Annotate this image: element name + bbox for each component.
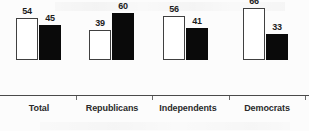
category-label-democrats: Democrats <box>236 104 298 113</box>
bar-republicans-series-2 <box>112 13 134 60</box>
x-axis-baseline <box>0 95 309 96</box>
plot-area: 54 45 Total 39 60 <box>0 0 309 96</box>
bar-value-label: 33 <box>272 23 282 32</box>
bar-wrap-republicans-series-2: 60 <box>112 13 134 60</box>
bar-democrats-series-2 <box>266 34 288 60</box>
axis-tick <box>152 96 153 100</box>
bar-democrats-series-1 <box>243 8 265 60</box>
bar-value-label: 56 <box>169 5 179 14</box>
bar-total-series-1 <box>16 18 38 60</box>
bar-total-series-2 <box>39 25 61 60</box>
bar-value-label: 41 <box>192 17 202 26</box>
axis-tick <box>305 96 306 100</box>
bar-wrap-total-series-1: 54 <box>16 18 38 60</box>
bar-wrap-democrats-series-2: 33 <box>266 34 288 60</box>
bar-value-label: 54 <box>22 7 32 16</box>
category-label-republicans: Republicans <box>80 104 144 113</box>
bar-wrap-democrats-series-1: 66 <box>243 8 265 60</box>
bar-chart: 54 45 Total 39 60 <box>0 0 309 131</box>
bar-wrap-total-series-2: 45 <box>39 25 61 60</box>
axis-tick <box>229 96 230 100</box>
bar-republicans-series-1 <box>89 30 111 60</box>
bar-independents-series-1 <box>163 16 185 60</box>
axis-tick <box>76 96 77 100</box>
bar-value-label: 60 <box>118 2 128 11</box>
bar-wrap-independents-series-2: 41 <box>186 28 208 60</box>
bar-value-label: 45 <box>45 14 55 23</box>
bar-value-label: 39 <box>95 19 105 28</box>
category-label-independents: Independents <box>154 104 222 113</box>
scan-artifact-bottom <box>40 122 290 130</box>
bar-wrap-republicans-series-1: 39 <box>89 30 111 60</box>
bar-wrap-independents-series-1: 56 <box>163 16 185 60</box>
bar-value-label: 66 <box>249 0 259 6</box>
category-label-total: Total <box>16 104 62 113</box>
bar-independents-series-2 <box>186 28 208 60</box>
